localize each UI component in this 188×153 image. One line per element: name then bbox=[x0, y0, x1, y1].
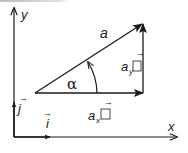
y-component-label: a y → bbox=[121, 48, 145, 76]
unit-vector-j-label: j bbox=[16, 101, 22, 116]
svg-text:a: a bbox=[88, 108, 95, 123]
angle-alpha-label: α bbox=[67, 75, 77, 93]
unit-vector-i-label: i bbox=[46, 116, 50, 131]
angle-arc bbox=[88, 62, 97, 93]
x-axis-label: x bbox=[167, 119, 175, 134]
vector-a-label: a bbox=[100, 25, 108, 41]
svg-text:→: → bbox=[136, 48, 145, 58]
vector-decomposition-diagram: y x → i → j a α a y → a x → bbox=[0, 0, 188, 153]
y-axis-label: y bbox=[20, 7, 29, 22]
x-component-label: a x → bbox=[88, 97, 113, 125]
svg-text:a: a bbox=[121, 59, 128, 74]
svg-text:x: x bbox=[95, 116, 101, 125]
svg-text:→: → bbox=[104, 97, 113, 107]
